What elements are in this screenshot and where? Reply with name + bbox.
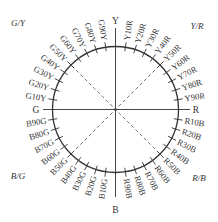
corner-label-yr: Y/R	[190, 21, 204, 31]
corner-label-rb: R/B	[191, 173, 206, 183]
hue-label-b10g: B10G	[96, 178, 109, 200]
primary-label-b: B	[112, 205, 118, 215]
primary-label-r: R	[193, 105, 200, 115]
hue-label-g10y: G10Y	[25, 90, 47, 103]
corner-label-gy: G/Y	[11, 18, 26, 28]
primary-label-g: G	[33, 105, 40, 115]
primary-label-y: Y	[112, 16, 119, 26]
hue-label-r90b: R90B	[122, 178, 135, 200]
hue-label-y90r: Y90R	[184, 90, 206, 103]
corner-label-bg: B/G	[11, 171, 26, 181]
hue-circle-diagram: Y10RY20RY30RY40RY50RY60RY70RY80RY90RR10B…	[0, 0, 218, 222]
